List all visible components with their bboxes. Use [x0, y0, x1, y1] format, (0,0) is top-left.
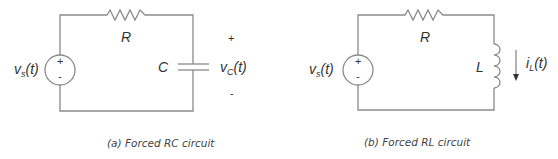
resistor-label: R [420, 29, 430, 45]
source-label: vs(t) [14, 61, 39, 79]
source-plus: + [57, 55, 63, 67]
resistor-label: R [121, 29, 131, 45]
inductor-current-label: iL(t) [526, 55, 547, 73]
rl-bottom-wire [358, 85, 494, 110]
capacitor-voltage-label: vC(t) [220, 59, 247, 77]
rl-circuit: + - vs(t) R L iL(t) (b) Forced RL circui… [309, 10, 547, 148]
rc-right-wire [60, 70, 193, 111]
circuit-diagrams: + - vs(t) R C vC(t) + - (a) Forced RC ci… [0, 0, 558, 159]
output-minus: - [230, 87, 234, 99]
source-plus: + [355, 55, 361, 67]
caption-rc: (a) Forced RC circuit [107, 137, 215, 149]
output-plus: + [228, 32, 234, 44]
inductor-icon [494, 44, 500, 88]
rc-circuit: + - vs(t) R C vC(t) + - (a) Forced RC ci… [14, 10, 247, 149]
source-minus: - [356, 70, 360, 82]
capacitor-label: C [158, 59, 169, 75]
current-arrowhead-icon [513, 74, 519, 81]
caption-rl: (b) Forced RL circuit [364, 136, 471, 148]
inductor-label: L [476, 59, 484, 75]
source-label: vs(t) [309, 61, 334, 79]
source-minus: - [58, 70, 62, 82]
